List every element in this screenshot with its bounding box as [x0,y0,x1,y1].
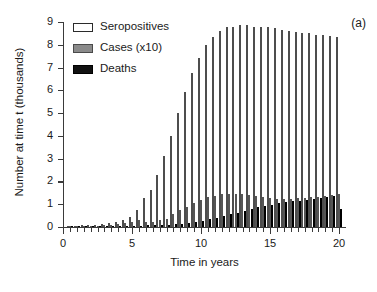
bar-seropositives [281,30,283,227]
x-tick-minor [70,228,71,232]
x-tick-major [201,228,202,234]
figure-panel-a: (a) Seropositives Cases (x10) Deaths 012… [0,0,377,292]
y-tick-label: 2 [0,175,53,186]
y-tick-label: 5 [0,107,53,118]
x-tick-minor [187,228,188,232]
plot-area [63,22,346,227]
x-tick-minor [215,228,216,232]
y-tick-label: 0 [0,221,53,232]
x-tick-minor [305,228,306,232]
x-tick-label: 10 [186,238,216,249]
x-tick-major [132,228,133,234]
y-tick-label: 9 [0,16,53,27]
x-tick-minor [139,228,140,232]
bar-seropositives [163,156,165,227]
x-tick-minor [222,228,223,232]
y-axis-title: Number at time t (thousands) [13,17,25,227]
x-tick-label: 20 [324,238,354,249]
x-tick-minor [243,228,244,232]
x-tick-minor [229,228,230,232]
x-tick-minor [208,228,209,232]
x-tick-minor [263,228,264,232]
y-tick-label: 7 [0,62,53,73]
x-tick-minor [180,228,181,232]
y-tick-label: 3 [0,153,53,164]
x-tick-minor [91,228,92,232]
x-tick-minor [153,228,154,232]
x-tick-major [270,228,271,234]
x-tick-major [339,228,340,234]
x-tick-minor [312,228,313,232]
x-tick-major [63,228,64,234]
x-tick-minor [332,228,333,232]
x-tick-minor [291,228,292,232]
bar-seropositives [156,175,158,227]
y-tick-label: 4 [0,130,53,141]
x-tick-label: 5 [117,238,147,249]
x-tick-minor [256,228,257,232]
x-tick-label: 15 [255,238,285,249]
x-tick-minor [284,228,285,232]
x-tick-minor [236,228,237,232]
x-tick-minor [146,228,147,232]
bar-seropositives [170,136,172,227]
x-tick-minor [173,228,174,232]
x-tick-minor [84,228,85,232]
y-tick-label: 6 [0,84,53,95]
x-tick-minor [167,228,168,232]
bar-deaths [340,209,342,227]
bar-seropositives [288,31,290,227]
x-tick-minor [77,228,78,232]
x-tick-minor [111,228,112,232]
y-tick-label: 1 [0,198,53,209]
x-tick-minor [318,228,319,232]
y-tick-label: 8 [0,39,53,50]
x-tick-minor [98,228,99,232]
x-tick-minor [194,228,195,232]
panel-label: (a) [351,16,366,30]
x-tick-minor [125,228,126,232]
x-tick-minor [104,228,105,232]
x-tick-minor [118,228,119,232]
x-tick-minor [249,228,250,232]
x-tick-minor [298,228,299,232]
x-tick-label: 0 [48,238,78,249]
x-tick-minor [277,228,278,232]
x-tick-minor [160,228,161,232]
x-tick-minor [325,228,326,232]
bar-seropositives [274,28,276,227]
x-axis-title: Time in years [63,256,346,268]
